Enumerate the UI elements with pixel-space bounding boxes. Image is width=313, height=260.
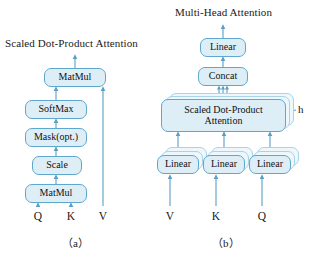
head-count-label: h	[298, 103, 304, 115]
input-label-k-a: K	[64, 210, 78, 222]
node-linear-q[interactable]: Linear	[249, 155, 291, 174]
node-mask-opt[interactable]: Mask(opt.)	[25, 128, 87, 147]
panel-b-caption: （b）	[212, 234, 240, 250]
node-matmul-top[interactable]: MatMul	[44, 68, 106, 87]
node-scale[interactable]: Scale	[32, 156, 82, 175]
panel-b-title: Multi-Head Attention	[175, 6, 272, 18]
node-concat[interactable]: Concat	[198, 67, 248, 86]
input-label-v-b: V	[163, 210, 177, 222]
input-label-q-b: Q	[255, 210, 269, 222]
panel-a-title: Scaled Dot-Product Attention	[5, 37, 138, 49]
node-linear-v[interactable]: Linear	[157, 155, 199, 174]
node-linear-output[interactable]: Linear	[200, 38, 246, 57]
panel-a-caption: （a）	[62, 234, 89, 250]
node-matmul-bottom[interactable]: MatMul	[25, 184, 87, 203]
node-linear-k[interactable]: Linear	[203, 155, 245, 174]
input-label-v-a: V	[96, 210, 110, 222]
input-label-q-a: Q	[31, 210, 45, 222]
node-softmax[interactable]: SoftMax	[25, 100, 87, 119]
input-label-k-b: K	[209, 210, 223, 222]
figure-canvas: Scaled Dot-Product Attention MatMul Soft…	[0, 0, 313, 260]
node-scaled-dot-product-attention[interactable]: Scaled Dot-ProductAttention	[161, 99, 286, 132]
